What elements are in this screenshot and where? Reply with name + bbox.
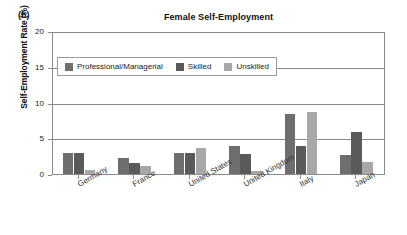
x-axis-tickmark	[355, 175, 356, 179]
legend-swatch-icon	[65, 63, 73, 71]
legend-label: Professional/Managerial	[77, 62, 163, 71]
y-axis-tick-0: 0	[14, 170, 44, 179]
legend: Professional/ManagerialSkilledUnskilled	[57, 57, 277, 76]
bar-group	[174, 33, 207, 174]
bar	[63, 153, 74, 174]
legend-item: Skilled	[176, 62, 212, 71]
x-axis-tickmark	[300, 175, 301, 179]
y-axis-tickmark-0	[48, 175, 52, 176]
y-axis-tick-15: 15	[14, 63, 44, 72]
plot-area	[52, 32, 385, 175]
bar-group	[229, 33, 262, 174]
bar	[240, 154, 251, 174]
y-axis-tick-10: 10	[14, 99, 44, 108]
figure: (b) Female Self-Employment Self-Employme…	[0, 0, 407, 235]
bar-group	[340, 33, 373, 174]
bar	[174, 153, 185, 174]
y-axis-tick-20: 20	[14, 27, 44, 36]
legend-item: Unskilled	[224, 62, 268, 71]
legend-label: Unskilled	[236, 62, 268, 71]
x-axis-tickmark	[133, 175, 134, 179]
bar	[351, 132, 362, 174]
bar-group	[63, 33, 96, 174]
bar	[74, 153, 85, 174]
legend-swatch-icon	[224, 63, 232, 71]
bar	[185, 153, 196, 174]
x-axis-tickmark	[189, 175, 190, 179]
y-axis-tick-5: 5	[14, 134, 44, 143]
x-axis-tickmark	[78, 175, 79, 179]
legend-item: Professional/Managerial	[65, 62, 163, 71]
bar	[340, 155, 351, 174]
bar	[129, 163, 140, 174]
bar-series-container	[53, 33, 384, 174]
x-axis-tickmark	[244, 175, 245, 179]
bar	[296, 146, 307, 174]
chart-title: Female Self-Employment	[52, 12, 385, 22]
legend-swatch-icon	[176, 63, 184, 71]
bar-group	[118, 33, 151, 174]
bar	[118, 158, 129, 174]
bar	[307, 112, 318, 174]
legend-label: Skilled	[188, 62, 212, 71]
